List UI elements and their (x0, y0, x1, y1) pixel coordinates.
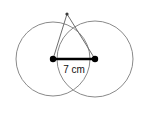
geometry-figure: 7 cm (0, 0, 153, 119)
distance-label: 7 cm (63, 64, 85, 75)
right-center-point (92, 56, 98, 62)
geometry-canvas: 7 cm (0, 0, 153, 119)
upper-intersection-point (65, 12, 68, 15)
left-center-point (50, 56, 56, 62)
